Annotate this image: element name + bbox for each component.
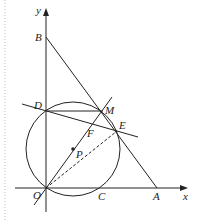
label-m: M — [104, 104, 115, 116]
label-a: A — [152, 190, 160, 202]
label-f: F — [86, 127, 94, 139]
label-o: O — [33, 189, 41, 201]
label-c: C — [98, 190, 106, 202]
geometry-diagram: y x B D M E F P O C A — [0, 0, 198, 220]
label-p: P — [75, 148, 83, 160]
label-b: B — [35, 31, 42, 43]
x-axis-label: x — [182, 190, 188, 202]
point-p-dot — [71, 147, 75, 151]
label-e: E — [118, 119, 126, 131]
y-axis-label: y — [35, 4, 41, 16]
y-axis-arrow-icon — [43, 8, 49, 16]
label-d: D — [33, 99, 42, 111]
